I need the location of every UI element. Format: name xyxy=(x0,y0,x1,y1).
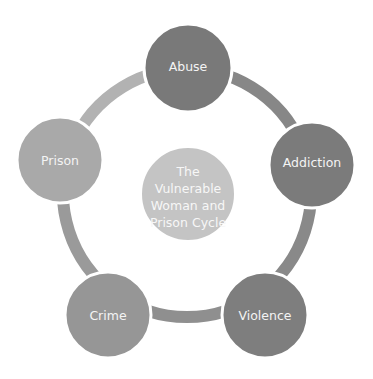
node-label-addiction: Addiction xyxy=(283,155,342,170)
node-abuse: Abuse xyxy=(144,24,232,112)
node-label-violence: Violence xyxy=(238,308,291,323)
node-label-prison: Prison xyxy=(41,153,79,168)
center-label-line-2: Vulnerable xyxy=(155,181,222,196)
center-label-line-1: The xyxy=(175,164,200,179)
node-addiction: Addiction xyxy=(269,122,355,208)
node-label-abuse: Abuse xyxy=(169,59,208,74)
center-node: The Vulnerable Woman and Prison Cycle xyxy=(141,147,235,241)
node-prison: Prison xyxy=(17,117,103,203)
center-label-line-4: Prison Cycle xyxy=(150,215,226,230)
node-crime: Crime xyxy=(65,272,151,358)
center-label-line-3: Woman and xyxy=(151,198,226,213)
node-violence: Violence xyxy=(222,272,308,358)
node-label-crime: Crime xyxy=(89,308,127,323)
cycle-diagram: The Vulnerable Woman and Prison Cycle Ab… xyxy=(0,0,373,379)
